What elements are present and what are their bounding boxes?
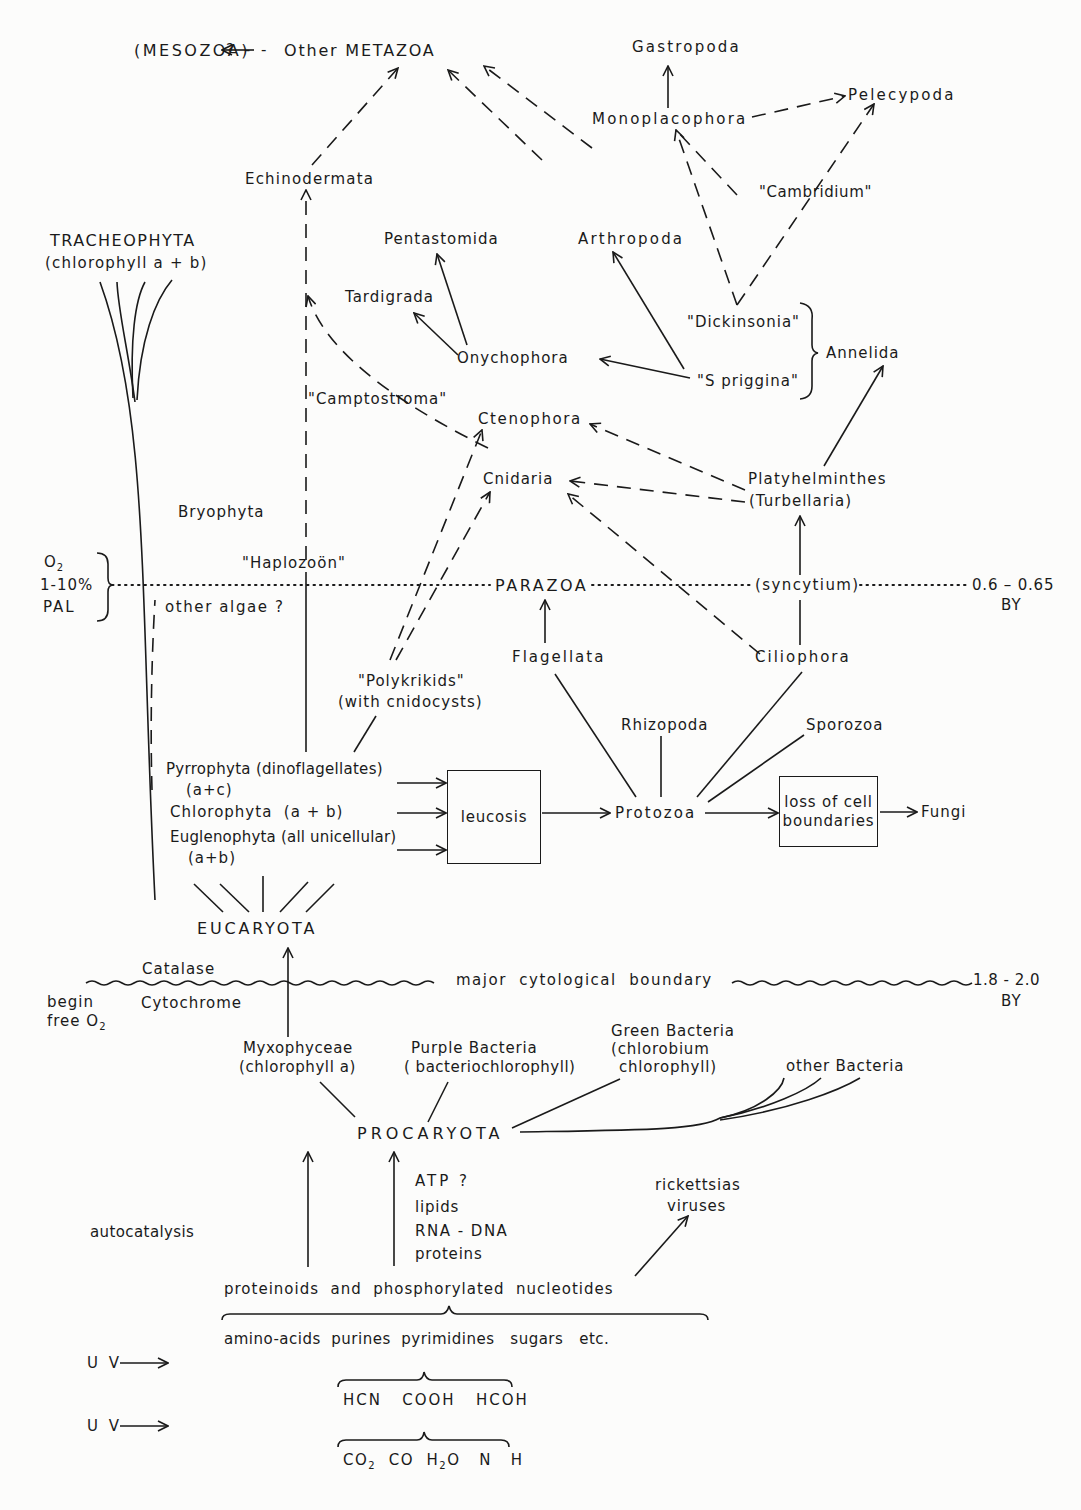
- loss-of-cell-boundaries-box: loss of cell boundaries: [779, 776, 878, 847]
- edge-procaryota-other-bacteria-2: [720, 1078, 821, 1118]
- node-procaryota: PROCARYOTA: [357, 1124, 504, 1143]
- node-tracheophyta: TRACHEOPHYTA: [50, 231, 196, 250]
- node-purple-bacteria: Purple Bacteria: [411, 1039, 538, 1058]
- node-small-molecules: HCN COOH HCOH: [343, 1391, 529, 1410]
- pyrrophyta-pigments: (a+c): [186, 781, 233, 800]
- node-green-bacteria: Green Bacteria: [611, 1022, 735, 1041]
- precursor-atp: ATP ?: [415, 1172, 470, 1191]
- o2-label: O2: [44, 553, 64, 577]
- node-cnidaria: Cnidaria: [483, 470, 553, 489]
- cytological-boundary-right: [732, 981, 972, 985]
- eucaryota-fan-2: [220, 884, 249, 912]
- node-dickinsonia: "Dickinsonia": [687, 313, 800, 332]
- node-chlorophyta: Chlorophyta (a + b): [170, 803, 343, 822]
- node-eucaryota: EUCARYOTA: [197, 919, 317, 938]
- small-molecules-brace: [338, 1372, 512, 1387]
- edge-onychophora-pentastomida: [437, 254, 467, 345]
- node-platyhelminthes: Platyhelminthes: [748, 470, 887, 489]
- parazoa-age: 0.6 – 0.65: [972, 576, 1054, 595]
- node-gastropoda: Gastropoda: [632, 38, 741, 57]
- uv-label-1: U V: [87, 1354, 122, 1373]
- parazoa-age-unit: BY: [1001, 596, 1022, 615]
- precursor-lipids: lipids: [415, 1198, 459, 1217]
- node-annelida: Annelida: [826, 344, 900, 363]
- edge-dickinsonia-pelecypoda: [737, 104, 874, 305]
- edge-cnidaria-echinodermata: [308, 296, 488, 448]
- edge-spriggina-onychophora: [600, 359, 690, 378]
- co-h2o-text: CO H: [389, 1451, 440, 1469]
- autocatalysis-label: autocatalysis: [90, 1223, 194, 1242]
- polykrikids-cnidocysts: (with cnidocysts): [338, 693, 483, 712]
- edge-mollusca-metazoa: [484, 66, 592, 148]
- edge-procaryota-green: [512, 1079, 620, 1128]
- edge-pyrrophyta-polykrikids: [354, 716, 376, 752]
- node-fungi: Fungi: [921, 803, 967, 822]
- edge-monoplacophora-pelecypoda: [752, 96, 845, 117]
- node-tardigrada: Tardigrada: [345, 288, 434, 307]
- node-proteinoids: proteinoids and phosphorylated nucleotid…: [224, 1280, 614, 1299]
- major-cytological-boundary-label: major cytological boundary: [456, 971, 713, 990]
- node-other-bacteria: other Bacteria: [786, 1057, 904, 1076]
- node-polykrikids: "Polykrikids": [358, 672, 465, 691]
- eucaryota-fan-1: [194, 884, 223, 912]
- eucaryota-fan-5: [306, 884, 334, 912]
- begin-free-o2-line1: begin: [47, 993, 94, 1012]
- edge-polykrikids-cnidaria: [396, 492, 490, 660]
- boundary-age-unit: BY: [1001, 992, 1022, 1011]
- edge-proteinoids-viruses: [635, 1216, 688, 1276]
- tracheophyta-branch-4: [137, 280, 172, 400]
- uv-label-2: U V: [87, 1417, 122, 1436]
- begin-free-o2-line2: free O2: [47, 1012, 107, 1036]
- euglenophyta-branch: [151, 600, 155, 790]
- edge-spriggina-arthropoda: [613, 252, 684, 369]
- catalase-label: Catalase: [142, 960, 215, 979]
- node-parazoa: PARAZOA: [495, 576, 588, 595]
- myxophyceae-pigment: (chlorophyll a): [239, 1058, 356, 1077]
- o2-symbol: O: [44, 553, 57, 571]
- node-monomers: amino-acids purines pyrimidines sugars e…: [224, 1330, 609, 1349]
- node-pyrrophyta: Pyrrophyta (dinoflagellates): [166, 760, 383, 779]
- node-primordial-molecules: CO2 CO H2O N H: [343, 1451, 524, 1475]
- node-bryophyta: Bryophyta: [178, 503, 265, 522]
- cytological-boundary-left: [86, 981, 434, 985]
- leucosis-box: leucosis: [447, 770, 541, 864]
- o-n-h-text: O N H: [447, 1451, 523, 1469]
- leucosis-label: leucosis: [461, 808, 528, 827]
- boundary-age: 1.8 - 2.0: [973, 971, 1040, 990]
- node-other-metazoa: Other METAZOA: [284, 41, 436, 60]
- node-flagellata: Flagellata: [512, 648, 605, 667]
- edge-platyhelminthes-annelida: [824, 366, 883, 466]
- node-myxophyceae: Myxophyceae: [243, 1039, 353, 1058]
- edge-echinodermata-metazoa: [312, 68, 398, 165]
- node-syncytium: (syncytium): [755, 576, 860, 595]
- o2-level: 1-10%: [40, 576, 93, 595]
- precursor-rna-dna: RNA - DNA: [415, 1222, 508, 1241]
- node-protozoa: Protozoa: [615, 804, 696, 823]
- node-arthropoda: Arthropoda: [578, 230, 684, 249]
- node-other-algae: other algae ?: [165, 598, 285, 617]
- node-euglenophyta: Euglenophyta (all unicellular): [170, 828, 396, 847]
- node-rickettsias: rickettsias: [655, 1176, 741, 1195]
- node-monoplacophora: Monoplacophora: [592, 110, 747, 129]
- precursor-proteins: proteins: [415, 1245, 483, 1264]
- primordial-brace: [338, 1432, 509, 1447]
- purple-bacteria-pigment: ( bacteriochlorophyll): [404, 1058, 575, 1077]
- edge-onychophora-tardigrada: [414, 313, 458, 355]
- edge-platyhelminthes-ctenophora: [590, 424, 745, 490]
- free-o-text: free O: [47, 1012, 99, 1030]
- edge-procaryota-purple: [428, 1082, 448, 1122]
- node-pelecypoda: Pelecypoda: [848, 86, 956, 105]
- edge-procaryota-myxophyceae: [320, 1082, 355, 1117]
- monomers-brace: [222, 1306, 708, 1320]
- edge-arthropoda-metazoa: [448, 70, 542, 160]
- annelida-brace: [800, 303, 818, 399]
- node-spriggina: "S priggina": [697, 372, 799, 391]
- edge-protozoa-flagellata: [555, 674, 636, 797]
- node-echinodermata: Echinodermata: [245, 170, 374, 189]
- co2-text: CO: [343, 1451, 368, 1469]
- loss-of-cell-boundaries-label: loss of cell boundaries: [783, 793, 875, 831]
- edge-polykrikids-ctenophora: [390, 430, 482, 660]
- edge-platyhelminthes-cnidaria: [570, 481, 745, 502]
- o2-unit: PAL: [43, 598, 76, 617]
- node-haplozoon: "Haplozoön": [242, 554, 346, 573]
